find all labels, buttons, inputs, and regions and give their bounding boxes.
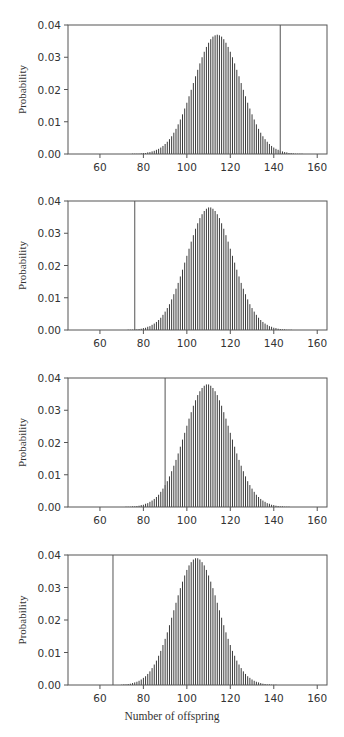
y-axis-label: Probability — [16, 65, 28, 114]
x-tick-label: 140 — [264, 514, 284, 526]
y-tick-label: 0.01 — [38, 292, 61, 304]
x-tick-label: 120 — [220, 514, 240, 526]
x-tick-label: 60 — [93, 514, 106, 526]
y-tick-label: 0.00 — [38, 501, 61, 513]
x-tick-label: 80 — [137, 161, 150, 173]
y-axis-label: Probability — [16, 595, 28, 644]
y-axis-label: Probability — [16, 241, 28, 290]
x-tick-label: 100 — [177, 514, 197, 526]
x-tick-label: 160 — [307, 161, 327, 173]
chart-panels: 0.000.010.020.030.046080100120140160Prob… — [0, 0, 344, 737]
x-tick-label: 120 — [220, 337, 240, 349]
y-tick-label: 0.02 — [38, 260, 61, 272]
chart-panel-2: 0.000.010.020.030.046080100120140160Prob… — [16, 195, 327, 349]
x-tick-label: 80 — [137, 514, 150, 526]
y-tick-label: 0.02 — [38, 437, 61, 449]
y-tick-label: 0.04 — [38, 195, 62, 207]
y-tick-label: 0.00 — [38, 148, 61, 160]
x-tick-label: 160 — [307, 514, 327, 526]
y-tick-label: 0.04 — [38, 372, 62, 384]
x-tick-label: 160 — [307, 337, 327, 349]
chart-panel-1: 0.000.010.020.030.046080100120140160Prob… — [16, 19, 327, 173]
y-tick-label: 0.01 — [38, 647, 61, 659]
x-tick-label: 100 — [177, 161, 197, 173]
y-tick-label: 0.02 — [38, 84, 61, 96]
x-tick-label: 100 — [177, 337, 197, 349]
x-tick-label: 120 — [220, 692, 240, 704]
y-tick-label: 0.01 — [38, 469, 61, 481]
chart-panel-4: 0.000.010.020.030.046080100120140160Prob… — [16, 549, 327, 704]
x-tick-label: 140 — [264, 337, 284, 349]
y-tick-label: 0.03 — [38, 582, 61, 594]
x-tick-label: 160 — [307, 692, 327, 704]
x-tick-label: 60 — [93, 337, 106, 349]
x-axis-label: Number of offspring — [0, 710, 344, 722]
bar-series — [128, 207, 291, 330]
y-tick-label: 0.01 — [38, 116, 61, 128]
y-axis-label: Probability — [16, 418, 28, 467]
y-tick-label: 0.03 — [38, 51, 61, 63]
chart-panel-3: 0.000.010.020.030.046080100120140160Prob… — [16, 372, 327, 526]
y-tick-label: 0.03 — [38, 404, 61, 416]
y-tick-label: 0.04 — [38, 19, 62, 31]
y-tick-label: 0.00 — [38, 324, 61, 336]
y-tick-label: 0.00 — [38, 679, 61, 691]
x-tick-label: 100 — [177, 692, 197, 704]
y-tick-label: 0.03 — [38, 227, 61, 239]
x-tick-label: 140 — [264, 161, 284, 173]
x-tick-label: 80 — [137, 692, 150, 704]
x-tick-label: 60 — [93, 692, 106, 704]
y-tick-label: 0.02 — [38, 614, 61, 626]
x-tick-label: 60 — [93, 161, 106, 173]
x-tick-label: 120 — [220, 161, 240, 173]
bar-series — [122, 558, 276, 685]
bar-series — [133, 35, 302, 154]
figure: 0.000.010.020.030.046080100120140160Prob… — [0, 0, 344, 737]
bar-series — [126, 384, 289, 507]
y-tick-label: 0.04 — [38, 549, 62, 561]
x-tick-label: 80 — [137, 337, 150, 349]
x-tick-label: 140 — [264, 692, 284, 704]
